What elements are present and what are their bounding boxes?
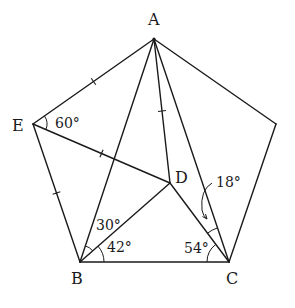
tick-mark-ad (158, 111, 166, 112)
segment-ac (154, 39, 229, 262)
tick-marks-group (53, 78, 166, 194)
vertex-label-e: E (12, 116, 24, 135)
vertex-label-b: B (71, 269, 83, 288)
angle-label-c-18: 18° (216, 174, 241, 190)
angle-arc-e-60 (44, 116, 47, 130)
angle-pointer-arrow (202, 183, 212, 219)
segment-cf (229, 124, 276, 262)
vertex-label-d: D (175, 168, 188, 187)
angle-label-e-60: 60° (55, 115, 80, 131)
angle-arc-c-18 (207, 228, 217, 233)
vertex-label-c: C (226, 269, 238, 288)
segment-fa (154, 39, 276, 124)
angle-label-c-54: 54° (184, 240, 209, 256)
angle-arc-b-30 (85, 246, 92, 251)
tick-mark-ae (91, 78, 96, 85)
geometry-figure: A E D B C 60° 30° 42° 54° 18° (0, 0, 295, 308)
labels-group: A E D B C 60° 30° 42° 54° 18° (12, 10, 241, 288)
angle-label-b-30: 30° (96, 217, 121, 233)
vertex-label-a: A (147, 10, 160, 29)
angle-label-b-42: 42° (107, 239, 132, 255)
segments-group (33, 37, 276, 262)
angle-arc-b-42 (98, 246, 104, 262)
